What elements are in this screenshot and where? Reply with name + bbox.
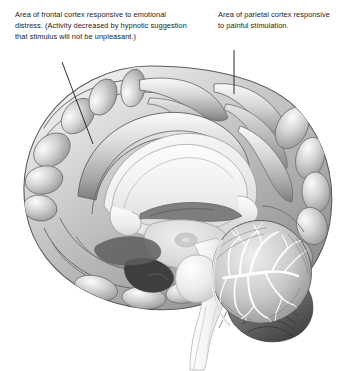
parietal-cortex-callout: Area of parietal cortex responsive to pa… bbox=[218, 9, 330, 31]
brain-illustration-svg bbox=[0, 0, 340, 371]
brain-figure bbox=[0, 0, 340, 371]
frontal-cortex-callout: Area of frontal cortex responsive to emo… bbox=[15, 9, 195, 43]
